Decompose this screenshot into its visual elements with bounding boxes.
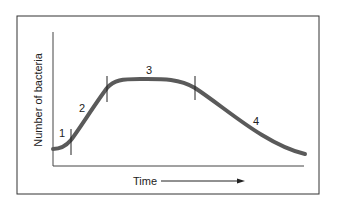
phase-label-4: 4 — [253, 115, 259, 127]
bacterial-growth-curve-diagram: 1 2 3 4 Number of bacteria Time — [0, 0, 338, 205]
time-arrow-head-icon — [237, 179, 245, 184]
y-axis-label: Number of bacteria — [32, 52, 44, 146]
phase-label-2: 2 — [79, 102, 85, 114]
phase-label-3: 3 — [146, 64, 152, 76]
x-axis-label: Time — [133, 175, 157, 187]
phase-label-1: 1 — [59, 127, 65, 139]
figure-frame — [17, 16, 319, 194]
growth-curve — [53, 79, 305, 154]
